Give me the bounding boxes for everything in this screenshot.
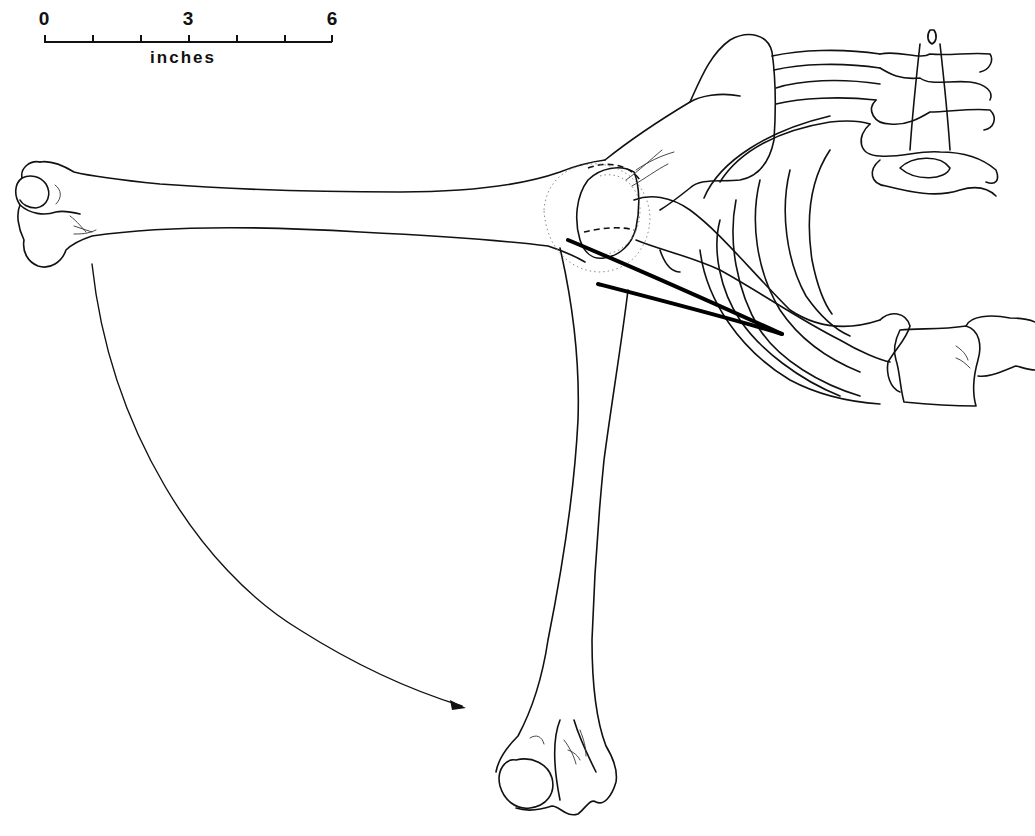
sternum: [880, 314, 1035, 406]
arrowhead-icon: [450, 700, 466, 710]
ribcage: [700, 50, 880, 404]
humerus-horizontal: [16, 160, 605, 267]
anatomical-drawing: [0, 0, 1035, 836]
rotation-arrow: [92, 264, 466, 710]
humerus-vertical: [496, 248, 628, 815]
scapula: [544, 35, 890, 362]
vertebral-column: [861, 30, 997, 196]
